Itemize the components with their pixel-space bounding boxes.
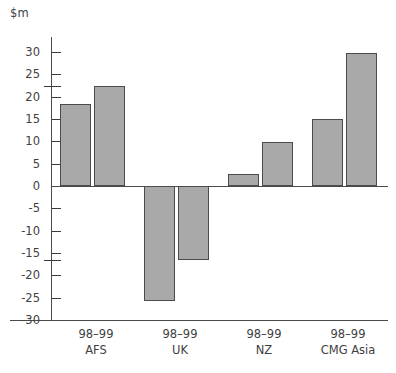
y-axis-tick-mark — [52, 97, 61, 98]
zero-baseline — [51, 186, 388, 187]
bar-chart: $m 302520151050-5-10-15-20-25-3098–99AFS… — [0, 0, 396, 373]
y-axis-tick-label: 10 — [10, 134, 40, 148]
x-axis-region-label: UK — [138, 342, 222, 358]
x-axis-region-label: NZ — [222, 342, 306, 358]
bar-cmg-asia-2 — [346, 53, 377, 186]
x-axis-region-label: AFS — [54, 342, 138, 358]
y-axis-tick-mark — [52, 74, 61, 75]
x-axis-group-label: 98–99UK — [138, 326, 222, 358]
bar-uk-1 — [144, 186, 175, 301]
x-axis-group-label: 98–99NZ — [222, 326, 306, 358]
y-axis-tick-mark — [52, 275, 61, 276]
bar-nz-1 — [228, 174, 259, 186]
y-axis-tick-label: -25 — [10, 291, 40, 305]
axis-extra-tick-mark — [44, 86, 61, 87]
x-axis-period-label: 98–99 — [222, 326, 306, 342]
axis-extra-tick-mark — [44, 260, 61, 261]
y-axis-tick-label: 25 — [10, 67, 40, 81]
bar-cmg-asia-1 — [312, 119, 343, 186]
y-axis-tick-label: 30 — [10, 45, 40, 59]
x-axis-group-label: 98–99AFS — [54, 326, 138, 358]
plot-area: 302520151050-5-10-15-20-25-3098–99AFS98–… — [0, 0, 396, 373]
bar-afs-1 — [60, 104, 91, 186]
bar-uk-2 — [178, 186, 209, 260]
y-axis-tick-mark — [52, 253, 61, 254]
y-axis-tick-label: -5 — [10, 201, 40, 215]
y-axis-tick-label: 0 — [10, 179, 40, 193]
x-axis-period-label: 98–99 — [138, 326, 222, 342]
x-axis-period-label: 98–99 — [306, 326, 390, 342]
y-axis-tick-mark — [52, 231, 61, 232]
y-axis-tick-label: -10 — [10, 224, 40, 238]
x-axis-period-label: 98–99 — [54, 326, 138, 342]
bar-nz-2 — [262, 142, 293, 186]
y-axis-tick-label: -15 — [10, 246, 40, 260]
y-axis-tick-mark — [52, 298, 61, 299]
y-axis-tick-label: -30 — [10, 313, 40, 327]
y-axis-tick-label: -20 — [10, 268, 40, 282]
x-axis-line — [10, 320, 388, 321]
x-axis-group-label: 98–99CMG Asia — [306, 326, 390, 358]
y-axis-line — [51, 37, 52, 320]
y-axis-tick-mark — [52, 52, 61, 53]
y-axis-tick-label: 20 — [10, 90, 40, 104]
y-axis-tick-label: 15 — [10, 112, 40, 126]
y-axis-tick-mark — [52, 208, 61, 209]
x-axis-region-label: CMG Asia — [306, 342, 390, 358]
bar-afs-2 — [94, 86, 125, 187]
y-axis-tick-label: 5 — [10, 157, 40, 171]
